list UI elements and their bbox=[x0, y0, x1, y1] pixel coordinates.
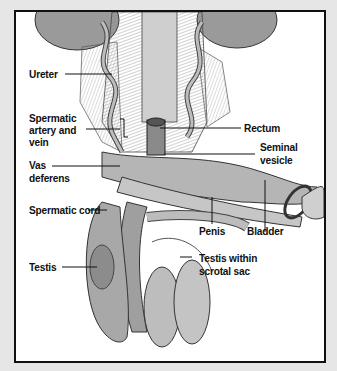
label-bladder: Bladder bbox=[247, 225, 283, 237]
label-testis-scrotal-line2: scrotal sac bbox=[199, 265, 250, 277]
label-spermatic-artery-line3: vein bbox=[29, 136, 49, 148]
label-vas-deferens-line2: deferens bbox=[29, 172, 70, 184]
diagram-frame: Ureter Spermatic artery and vein Vas def… bbox=[14, 10, 326, 363]
label-testis: Testis bbox=[29, 261, 56, 273]
label-seminal-vesicle-line2: vesicle bbox=[260, 154, 293, 166]
leader-lines bbox=[16, 12, 324, 361]
label-spermatic-artery-line1: Spermatic bbox=[29, 112, 76, 124]
label-rectum: Rectum bbox=[244, 122, 280, 134]
label-vas-deferens-line1: Vas bbox=[29, 159, 46, 171]
label-testis-scrotal-line1: Testis within bbox=[199, 252, 257, 264]
label-spermatic-cord: Spermatic cord bbox=[29, 204, 100, 216]
label-seminal-vesicle-line1: Seminal bbox=[260, 141, 298, 153]
label-penis: Penis bbox=[199, 225, 225, 237]
label-ureter: Ureter bbox=[29, 68, 58, 80]
label-spermatic-artery-line2: artery and bbox=[29, 124, 76, 136]
